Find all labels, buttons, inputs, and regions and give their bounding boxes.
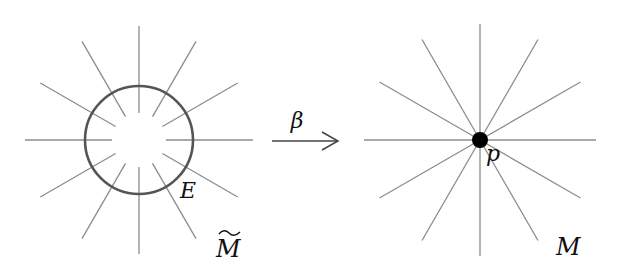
ray-line — [480, 82, 581, 140]
ray-line — [162, 154, 237, 198]
original-space-label: M — [555, 233, 582, 261]
ray-line — [153, 41, 197, 116]
blowup-diagram: E M β p M — [0, 0, 617, 275]
ray-line — [82, 41, 126, 116]
ray-line — [480, 40, 538, 141]
ray-line — [380, 82, 481, 140]
exceptional-divisor-label: E — [179, 178, 196, 203]
ray-line — [380, 140, 481, 198]
ray-line — [40, 154, 115, 198]
ray-line — [422, 140, 480, 241]
ray-line — [422, 40, 480, 141]
ray-line — [40, 83, 115, 127]
blowup-map-arrow — [272, 132, 338, 150]
point-label: p — [486, 141, 500, 166]
map-label: β — [290, 108, 304, 133]
ray-line — [82, 163, 126, 238]
left-rays — [25, 26, 253, 254]
ray-line — [162, 83, 237, 127]
blown-up-space-letter: M — [215, 235, 242, 263]
blown-up-space-label: M — [215, 231, 242, 263]
